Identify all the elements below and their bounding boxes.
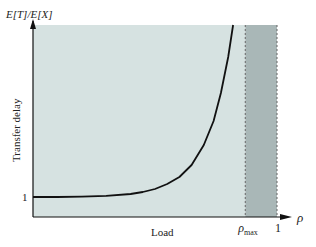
x-axis-label: Load <box>151 226 174 238</box>
y-axis-top-label: E[T]/E[X] <box>5 8 52 20</box>
x-tick-subscript: max <box>244 228 258 237</box>
x-axis-symbol: ρ <box>296 210 303 225</box>
y-tick-label-0: 1 <box>22 191 28 203</box>
y-axis-arrow <box>30 19 36 29</box>
chart: E[T]/E[X] Transfer delay Load ρ 1ρmax1 <box>0 0 316 247</box>
x-tick-label-1: 1 <box>275 221 281 235</box>
y-axis-label: Transfer delay <box>10 98 22 162</box>
x-tick-label-0: ρmax <box>237 221 258 237</box>
infeasible-region <box>245 25 277 217</box>
x-axis-arrow <box>280 214 292 220</box>
